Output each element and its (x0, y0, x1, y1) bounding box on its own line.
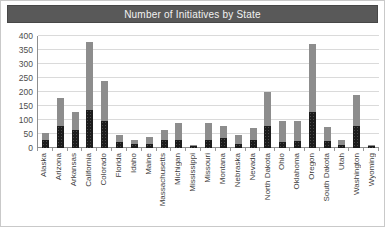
bar-oklahoma (290, 36, 305, 148)
y-tick-label-300: 300 (19, 59, 33, 69)
x-label-washington: Washington (349, 153, 364, 227)
bar-alaska (38, 36, 53, 148)
plot-area (37, 36, 379, 148)
x-label-south-dakota: South Dakota (320, 153, 335, 227)
bar-wyoming (364, 36, 379, 148)
bar-segment-mississippi-bottom-dark (190, 146, 197, 148)
bar-arizona (53, 36, 68, 148)
bar-mississippi (186, 36, 201, 148)
x-label-text-mississippi: Mississippi (189, 153, 197, 192)
bar-segment-arkansas-bottom-dark (72, 130, 79, 148)
bar-segment-massachusetts-top-gray (161, 130, 168, 140)
bar-segment-california-bottom-dark (86, 110, 93, 148)
plot-row: 050100150200250300350400 (1, 27, 384, 148)
bar-maine (142, 36, 157, 148)
x-label-oklahoma: Oklahoma (290, 153, 305, 227)
x-label-text-michigan: Michigan (174, 153, 182, 185)
x-label-north-dakota: North Dakota (260, 153, 275, 227)
bar-arkansas (68, 36, 83, 148)
bar-washington (349, 36, 364, 148)
x-label-oregon: Oregon (305, 153, 320, 227)
x-tick-mississippi (186, 148, 201, 151)
x-label-missouri: Missouri (201, 153, 216, 227)
bar-segment-alaska-top-gray (42, 133, 49, 140)
x-label-text-montana: Montana (219, 153, 227, 184)
x-tick-oklahoma (290, 148, 305, 151)
x-label-idaho: Idaho (126, 153, 141, 227)
bar-segment-south-dakota-top-gray (324, 127, 331, 141)
bar-segment-montana-bottom-dark (220, 138, 227, 148)
bar-segment-oregon-bottom-dark (309, 112, 316, 148)
bar-segment-arizona-top-gray (57, 98, 64, 126)
bar-segment-oklahoma-bottom-dark (294, 141, 301, 148)
x-label-alaska: Alaska (37, 153, 52, 227)
bar-colorado (97, 36, 112, 148)
x-label-text-massachusetts: Massachusetts (159, 153, 167, 206)
bar-segment-missouri-top-gray (205, 123, 212, 140)
bar-segment-florida-top-gray (116, 135, 123, 142)
x-label-text-maine: Maine (145, 153, 153, 175)
bar-missouri (201, 36, 216, 148)
x-label-maine: Maine (141, 153, 156, 227)
bar-segment-colorado-bottom-dark (101, 121, 108, 148)
bar-segment-north-dakota-bottom-dark (264, 126, 271, 148)
bar-segment-washington-top-gray (353, 95, 360, 126)
x-tick-california (82, 148, 97, 151)
x-label-text-california: California (85, 153, 93, 187)
x-label-text-arkansas: Arkansas (70, 153, 78, 186)
x-tick-maine (142, 148, 157, 151)
x-tick-north-dakota (260, 148, 275, 151)
x-label-text-south-dakota: South Dakota (323, 153, 331, 201)
x-label-text-colorado: Colorado (100, 153, 108, 185)
bar-segment-nebraska-top-gray (235, 135, 242, 143)
y-tick-label-150: 150 (19, 101, 33, 111)
bar-north-dakota (260, 36, 275, 148)
x-label-text-alaska: Alaska (40, 153, 48, 177)
x-label-text-wyoming: Wyoming (368, 153, 376, 186)
x-tick-washington (349, 148, 364, 151)
bar-segment-montana-top-gray (220, 126, 227, 139)
y-tick-label-0: 0 (28, 143, 33, 153)
x-label-nevada: Nevada (245, 153, 260, 227)
bar-segment-arkansas-top-gray (72, 112, 79, 130)
x-label-ohio: Ohio (275, 153, 290, 227)
bar-segment-ohio-bottom-dark (279, 142, 286, 148)
x-label-text-oklahoma: Oklahoma (293, 153, 301, 189)
bar-segment-california-top-gray (86, 42, 93, 111)
x-tick-nevada (246, 148, 261, 151)
x-tick-florida (112, 148, 127, 151)
x-tick-idaho (127, 148, 142, 151)
x-label-wyoming: Wyoming (364, 153, 379, 227)
x-tick-alaska (38, 148, 53, 151)
x-label-utah: Utah (335, 153, 350, 227)
x-label-mississippi: Mississippi (186, 153, 201, 227)
bar-segment-washington-bottom-dark (353, 126, 360, 148)
bar-segment-colorado-top-gray (101, 81, 108, 122)
chart-title: Number of Initiatives by State (7, 5, 378, 23)
bar-segment-missouri-bottom-dark (205, 140, 212, 148)
bar-segment-north-dakota-top-gray (264, 92, 271, 126)
bar-montana (216, 36, 231, 148)
x-tick-missouri (201, 148, 216, 151)
x-tick-colorado (97, 148, 112, 151)
x-label-text-arizona: Arizona (55, 153, 63, 180)
x-label-colorado: Colorado (97, 153, 112, 227)
y-tick-label-50: 50 (24, 129, 33, 139)
bar-nebraska (231, 36, 246, 148)
x-axis-labels: AlaskaArizonaArkansasCaliforniaColoradoF… (37, 151, 379, 227)
bar-oregon (305, 36, 320, 148)
bar-idaho (127, 36, 142, 148)
bar-segment-nevada-top-gray (250, 128, 257, 139)
x-tick-massachusetts (157, 148, 172, 151)
y-axis: 050100150200250300350400 (1, 36, 37, 148)
x-label-text-north-dakota: North Dakota (264, 153, 272, 200)
bar-segment-maine-bottom-dark (146, 144, 153, 148)
bar-segment-south-dakota-bottom-dark (324, 141, 331, 148)
x-tick-montana (216, 148, 231, 151)
x-label-text-florida: Florida (115, 153, 123, 177)
bar-segment-florida-bottom-dark (116, 142, 123, 148)
x-tick-utah (335, 148, 350, 151)
bar-california (82, 36, 97, 148)
bar-segment-idaho-bottom-dark (131, 144, 138, 148)
x-tick-nebraska (231, 148, 246, 151)
